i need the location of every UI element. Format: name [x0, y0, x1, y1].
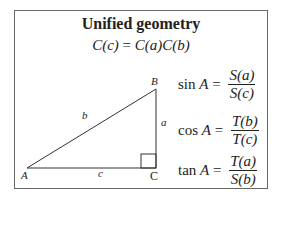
tangent-func: tan	[178, 162, 196, 179]
cosine-func: cos	[178, 122, 198, 139]
sine-fraction: S(a)S(c)	[228, 67, 255, 102]
cosine-equals: =	[211, 122, 227, 139]
sine-denominator: S(c)	[230, 85, 254, 102]
tangent-fraction: T(a)S(b)	[229, 153, 257, 188]
side-a-label: a	[161, 116, 167, 128]
sine-numerator: S(a)	[228, 67, 255, 85]
cosine-denominator: T(c)	[232, 131, 257, 148]
cosine-var: A	[202, 122, 211, 139]
tangent-equals: =	[209, 162, 225, 179]
sine-var: A	[199, 76, 208, 93]
sine-func: sin	[178, 76, 196, 93]
cosine-formula: cos A = T(b)T(c)	[178, 113, 259, 148]
side-b-line	[27, 89, 156, 168]
right-angle-marker	[141, 154, 156, 168]
tangent-var: A	[200, 162, 209, 179]
cosine-numerator: T(b)	[231, 113, 259, 131]
tangent-formula: tan A = T(a)S(b)	[178, 153, 257, 188]
cosine-fraction: T(b)T(c)	[231, 113, 259, 148]
vertex-b-label: B	[151, 75, 158, 87]
sine-formula: sin A = S(a)S(c)	[178, 67, 255, 102]
tangent-denominator: S(b)	[231, 171, 256, 188]
vertex-c-label: C	[150, 169, 158, 184]
sine-equals: =	[208, 76, 224, 93]
side-c-label: c	[98, 167, 103, 179]
tangent-numerator: T(a)	[229, 153, 257, 171]
side-b-label: b	[82, 109, 88, 121]
vertex-a-label: A	[21, 169, 28, 181]
